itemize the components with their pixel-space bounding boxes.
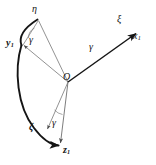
- axis-O-to-xi: [68, 34, 136, 83]
- label-zeta: ζ: [29, 122, 33, 132]
- ray-O-to-y1: [24, 46, 68, 83]
- diagram-canvas: [0, 0, 156, 165]
- label-z1-subscript: 1: [67, 148, 70, 155]
- label-y1: y1: [6, 38, 14, 48]
- label-origin: O: [63, 72, 70, 82]
- label-gamma-lower: γ: [52, 118, 56, 128]
- label-x1: x1: [133, 31, 141, 41]
- label-gamma-upper: γ: [29, 35, 33, 45]
- label-gamma-middle: γ: [89, 42, 93, 52]
- label-y1-subscript: 1: [11, 41, 14, 48]
- label-x1-base: x: [133, 30, 137, 41]
- label-eta: η: [32, 4, 37, 14]
- arc-segment-y1-to-z1: [18, 45, 59, 146]
- figure-root: η y1 γ ξ x1 γ O ζ γ z1: [0, 0, 156, 165]
- label-z1: z1: [63, 145, 70, 155]
- label-xi: ξ: [117, 14, 121, 24]
- label-x1-subscript: 1: [138, 34, 141, 41]
- label-y1-base: y: [6, 37, 10, 48]
